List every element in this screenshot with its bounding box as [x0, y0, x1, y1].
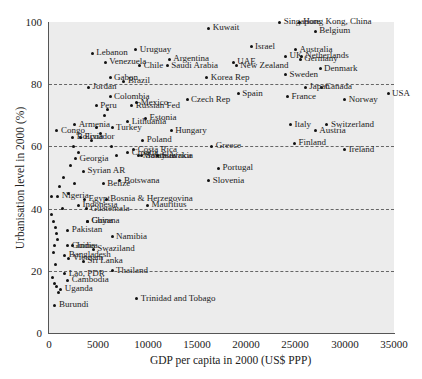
data-point [69, 164, 72, 167]
point-label: Mauritius [152, 200, 187, 209]
point-label: Spain [242, 89, 263, 98]
point-label: Thailand [116, 266, 148, 275]
x-axis [48, 333, 395, 334]
data-point [300, 55, 303, 58]
point-label: Lebanon [96, 48, 128, 57]
data-point [67, 192, 70, 195]
point-label: USA [392, 89, 410, 98]
point-label: Brazil [128, 76, 150, 85]
point-label: Jordan [92, 82, 116, 91]
point-label: Portugal [223, 163, 254, 172]
point-label: Hungary [175, 126, 207, 135]
point-label: Uruguay [140, 45, 172, 54]
data-point [82, 260, 85, 263]
y-tick-100: 100 [10, 16, 42, 28]
data-point [111, 126, 114, 129]
x-tick-5000: 5000 [73, 338, 123, 350]
data-point [109, 95, 112, 98]
point-label: Israel [255, 42, 275, 51]
data-point [299, 58, 302, 61]
data-point [104, 61, 107, 64]
point-label: Slovakia [161, 151, 193, 160]
point-label: Czech Rep [191, 95, 230, 104]
data-point [103, 114, 106, 117]
point-label: Slovenia [213, 176, 245, 185]
data-point [86, 220, 89, 223]
data-point [166, 64, 169, 67]
point-label: Kuwait [213, 23, 240, 32]
data-point [102, 182, 105, 185]
point-label: Uganda [65, 284, 93, 293]
data-point [319, 67, 322, 70]
x-tick-25000: 25000 [270, 338, 320, 350]
point-label: Austria [319, 126, 346, 135]
point-label: Indonesia [83, 200, 118, 209]
x-tick-0: 0 [24, 338, 74, 350]
y-axis [48, 22, 49, 334]
x-tick-35000: 35000 [369, 338, 419, 350]
data-point [71, 136, 74, 139]
point-label: Sri Lanka [88, 256, 123, 265]
data-point [207, 27, 210, 30]
point-label: Norway [349, 95, 378, 104]
point-label: Chile [144, 61, 164, 70]
data-point [111, 235, 114, 238]
data-point [90, 139, 93, 142]
data-point [106, 108, 109, 111]
data-point [232, 61, 235, 64]
point-label: Sweden [290, 70, 319, 79]
data-point [141, 139, 144, 142]
point-label: Syrian AR [88, 166, 126, 175]
point-label: Belgium [319, 26, 350, 35]
data-point [115, 154, 118, 157]
data-point [91, 52, 94, 55]
data-point [111, 269, 114, 272]
point-label: Denmark [324, 64, 358, 73]
point-label: Greece [216, 141, 241, 150]
point-label: Ireland [349, 145, 374, 154]
point-label: UAE [237, 57, 256, 66]
data-point [186, 98, 189, 101]
data-point [298, 21, 301, 24]
point-label: Finland [298, 138, 326, 147]
point-label: Poland [147, 135, 172, 144]
x-tick-15000: 15000 [172, 338, 222, 350]
x-axis-label: GDP per capita in 2000 (US$ PPP) [150, 354, 311, 366]
x-tick-20000: 20000 [221, 338, 271, 350]
data-point [387, 92, 390, 95]
data-point [304, 86, 307, 89]
x-tick-30000: 30000 [320, 338, 370, 350]
point-label: Japan [309, 82, 330, 91]
scatter-chart: 100 80 60 40 20 0 0 5000 10000 15000 200… [0, 0, 422, 379]
data-point [314, 30, 317, 33]
point-label: Saudi Arabia [171, 61, 218, 70]
point-label: Netherlands [305, 51, 348, 60]
point-label: Croatia [132, 148, 159, 157]
point-label: Namibia [116, 232, 147, 241]
point-label: Belize [107, 179, 130, 188]
point-label: Trinidad and Tobago [141, 294, 216, 303]
point-label: Burundi [59, 300, 89, 309]
point-label: Colombia [114, 92, 150, 101]
point-label: France [292, 92, 317, 101]
y-axis-label: Urbanisation level in 2000 (%) [14, 88, 26, 268]
point-label: Guyana [91, 216, 119, 225]
data-point [284, 55, 287, 58]
data-point [237, 92, 240, 95]
x-tick-10000: 10000 [123, 338, 173, 350]
data-point [293, 142, 296, 145]
data-point [66, 279, 69, 282]
data-point [87, 86, 90, 89]
data-point [278, 21, 281, 24]
data-point [110, 145, 113, 148]
point-label: Turkey [116, 123, 142, 132]
data-point [217, 167, 220, 170]
data-point [79, 136, 82, 139]
point-label: Congo [61, 126, 85, 135]
point-label: Georgia [80, 154, 109, 163]
data-point [82, 170, 85, 173]
point-label: Pakistan [72, 225, 103, 234]
point-label: Italy [295, 120, 312, 129]
point-label: Korea Rep [211, 73, 250, 82]
